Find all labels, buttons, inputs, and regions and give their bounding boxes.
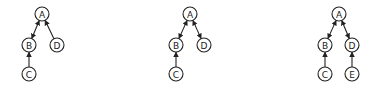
node-B: B bbox=[22, 38, 36, 52]
node-label: B bbox=[173, 41, 179, 51]
node-label: C bbox=[173, 70, 179, 80]
edge-A-D bbox=[193, 20, 201, 38]
edge-D-A bbox=[45, 20, 54, 38]
edge-A-B bbox=[328, 20, 336, 38]
node-A: A bbox=[35, 7, 49, 21]
node-label: C bbox=[26, 70, 32, 80]
edge-A-B bbox=[32, 20, 40, 38]
node-label: E bbox=[349, 70, 355, 80]
node-A: A bbox=[332, 7, 346, 21]
node-D: D bbox=[197, 38, 211, 52]
node-label: B bbox=[26, 41, 32, 51]
node-label: A bbox=[39, 10, 46, 20]
node-label: A bbox=[336, 10, 343, 20]
node-label: D bbox=[54, 41, 61, 51]
node-C: C bbox=[169, 67, 183, 81]
node-A: A bbox=[183, 7, 197, 21]
node-label: B bbox=[322, 41, 328, 51]
node-D: D bbox=[345, 38, 359, 52]
node-D: D bbox=[50, 38, 64, 52]
node-label: D bbox=[201, 41, 208, 51]
node-label: C bbox=[322, 70, 328, 80]
node-label: A bbox=[187, 10, 194, 20]
nodes-panel-2: ABDC bbox=[169, 7, 211, 81]
node-C: C bbox=[318, 67, 332, 81]
node-C: C bbox=[22, 67, 36, 81]
node-E: E bbox=[345, 67, 359, 81]
node-label: D bbox=[349, 41, 356, 51]
node-B: B bbox=[169, 38, 183, 52]
edge-A-B bbox=[179, 20, 187, 38]
nodes-panel-1: ABDC bbox=[22, 7, 64, 81]
tree-diagrams: ABDCABDCABDCE bbox=[0, 0, 378, 88]
nodes-panel-3: ABDCE bbox=[318, 7, 359, 81]
edge-A-D bbox=[342, 20, 350, 38]
node-B: B bbox=[318, 38, 332, 52]
